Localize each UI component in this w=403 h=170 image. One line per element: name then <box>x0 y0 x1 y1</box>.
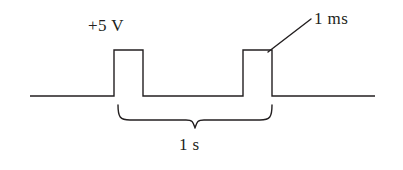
period-label: 1 s <box>179 136 200 153</box>
pulse-width-leader-line <box>268 19 311 52</box>
waveform-trace <box>30 50 375 96</box>
pulse-width-label: 1 ms <box>314 10 348 27</box>
period-brace <box>118 105 272 128</box>
pulse-timing-diagram: +5 V 1 ms 1 s <box>0 0 403 170</box>
amplitude-label: +5 V <box>88 17 124 34</box>
